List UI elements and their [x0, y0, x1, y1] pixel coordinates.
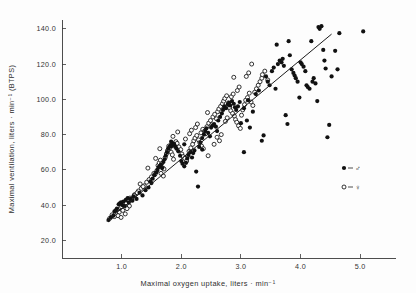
data-point-male — [309, 39, 313, 43]
x-tick-labels: 1.02.03.04.05.0 — [116, 262, 365, 271]
data-point-male — [361, 29, 365, 33]
data-point-male — [140, 193, 144, 197]
data-point-male — [327, 123, 331, 127]
x-tick-label: 5.0 — [355, 262, 366, 271]
data-point-female — [250, 62, 254, 66]
data-point-female — [171, 134, 175, 138]
data-point-male — [282, 64, 286, 68]
data-point-male — [319, 24, 323, 28]
data-point-male — [176, 149, 180, 153]
data-point-male — [303, 69, 307, 73]
scatter-plot: 1.02.03.04.05.0 20.040.060.080.0100.0120… — [0, 0, 416, 293]
data-point-female — [217, 139, 221, 143]
y-tick-label: 20.0 — [41, 236, 56, 245]
data-point-male — [257, 88, 261, 92]
data-point-female — [119, 215, 123, 219]
data-point-male — [333, 49, 337, 53]
data-point-female — [123, 212, 127, 216]
data-point-male — [160, 166, 164, 170]
y-tick-label: 120.0 — [37, 60, 57, 69]
x-tick-label: 4.0 — [295, 262, 306, 271]
data-point-male — [315, 99, 319, 103]
data-point-male — [329, 74, 333, 78]
y-tick-labels: 20.040.060.080.0100.0120.0140.0 — [37, 24, 57, 245]
data-point-male — [335, 67, 339, 71]
data-point-male — [264, 74, 268, 78]
data-point-male — [239, 121, 243, 125]
axes — [62, 20, 396, 258]
data-point-female — [247, 91, 251, 95]
data-point-male — [275, 43, 279, 47]
data-point-male — [284, 113, 288, 117]
legend: ♂♀ — [342, 164, 361, 192]
data-point-male — [228, 103, 232, 107]
data-point-female — [206, 154, 210, 158]
data-point-male — [190, 155, 194, 159]
data-point-female — [138, 182, 142, 186]
data-point-male — [281, 57, 285, 61]
data-point-female — [237, 85, 241, 89]
data-point-male — [272, 66, 276, 70]
data-point-male — [322, 58, 326, 62]
data-point-male — [321, 48, 325, 52]
data-point-male — [307, 87, 311, 91]
data-point-female — [238, 126, 242, 130]
data-point-male — [324, 66, 328, 70]
data-point-male — [242, 150, 246, 154]
data-point-male — [178, 154, 182, 158]
data-point-male — [182, 142, 186, 146]
data-point-female — [183, 137, 187, 141]
data-point-male — [312, 76, 316, 80]
data-point-male — [285, 122, 289, 126]
data-point-male — [248, 125, 252, 129]
data-point-male — [196, 185, 200, 189]
data-point-male — [204, 126, 208, 130]
data-point-female — [176, 130, 180, 134]
data-point-female — [154, 156, 158, 160]
data-point-male — [297, 95, 301, 99]
x-axis-title: Maximal oxygen uptake, liters · min⁻¹ — [140, 279, 275, 288]
legend-label: ♂ — [355, 164, 361, 173]
data-point-female — [195, 122, 199, 126]
data-point-female — [225, 94, 229, 98]
data-point-female — [158, 147, 162, 151]
data-point-male — [301, 65, 305, 69]
data-point-male — [169, 140, 173, 144]
data-point-female — [172, 157, 176, 161]
data-point-male — [251, 110, 255, 114]
regression-line — [107, 34, 332, 221]
data-point-female — [240, 113, 244, 117]
data-point-female — [170, 153, 174, 157]
legend-marker-female — [342, 185, 346, 189]
x-tick-label: 3.0 — [235, 262, 246, 271]
y-tick-label: 60.0 — [41, 165, 56, 174]
figure-container: 1.02.03.04.05.0 20.040.060.080.0100.0120… — [0, 0, 416, 293]
y-tick-label: 140.0 — [37, 24, 57, 33]
y-tick-label: 80.0 — [41, 130, 56, 139]
data-point-male — [295, 80, 299, 84]
y-tick-label: 40.0 — [41, 201, 56, 210]
data-point-female — [206, 111, 210, 115]
x-tick-label: 2.0 — [176, 262, 187, 271]
data-point-male — [214, 125, 218, 129]
data-point-male — [273, 87, 277, 91]
data-point-male — [313, 81, 317, 85]
data-point-male — [261, 133, 265, 137]
data-point-male — [148, 179, 152, 183]
legend-label: ♀ — [355, 183, 361, 192]
data-point-female — [212, 142, 216, 146]
data-point-female — [195, 133, 199, 137]
legend-marker-male — [342, 166, 346, 170]
data-point-male — [287, 39, 291, 43]
x-tick-label: 1.0 — [116, 262, 127, 271]
trend-line — [107, 34, 332, 221]
data-point-female — [189, 128, 193, 132]
data-point-male — [236, 104, 240, 108]
data-point-male — [245, 118, 249, 122]
data-point-male — [210, 124, 214, 128]
data-point-male — [238, 100, 242, 104]
data-point-male — [325, 135, 329, 139]
y-tick-label: 100.0 — [37, 95, 57, 104]
data-point-male — [260, 139, 264, 143]
data-point-male — [194, 170, 198, 174]
